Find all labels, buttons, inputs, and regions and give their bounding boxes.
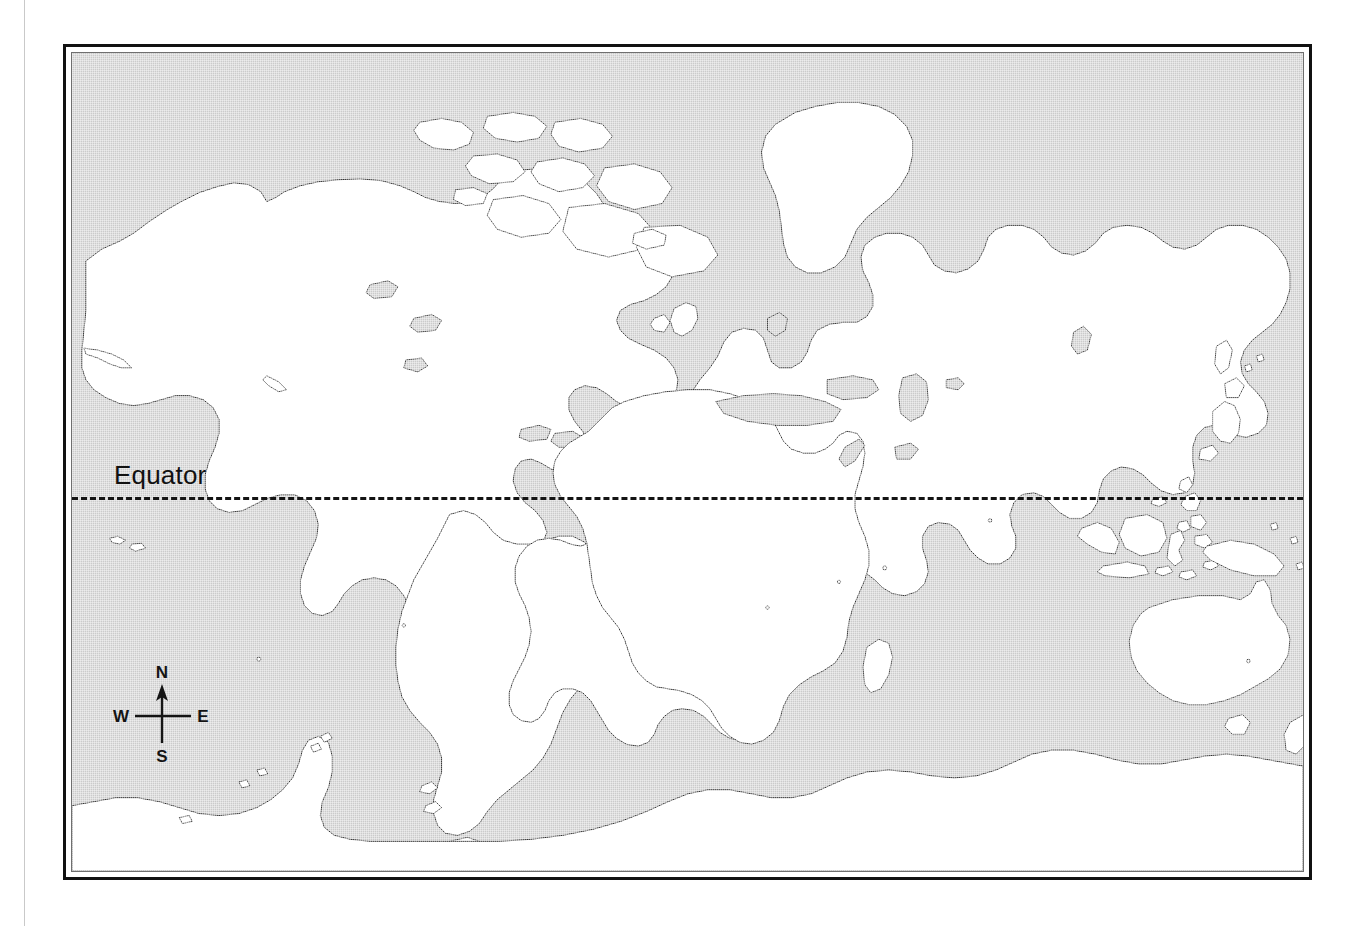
- map-plate: Equator N E S W: [71, 52, 1304, 872]
- landmass-antarctica: [72, 732, 1303, 871]
- equator-line: [72, 497, 1303, 500]
- equator-label: Equator: [114, 460, 206, 491]
- compass-needle-icon: [135, 684, 191, 743]
- map-frame-outer: Equator N E S W: [63, 44, 1312, 880]
- world-outline-map: [72, 53, 1303, 871]
- page-canvas: Equator N E S W: [0, 0, 1366, 926]
- page-gutter-line: [24, 0, 25, 926]
- compass-label-south: S: [156, 747, 167, 766]
- landmass-oceania: [1077, 493, 1303, 754]
- compass-rose: N E S W: [107, 658, 217, 768]
- compass-label-east: E: [197, 707, 208, 726]
- compass-label-north: N: [156, 663, 168, 682]
- compass-label-west: W: [113, 707, 130, 726]
